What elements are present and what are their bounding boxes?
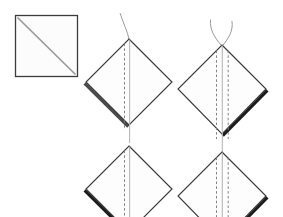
thread-line-icon (120, 14, 129, 40)
diamond-top-left (85, 14, 172, 144)
diamond-top-right (178, 20, 267, 152)
diamond-panel-fill (86, 39, 172, 125)
figure-canvas: Fabric folding diagram (0, 0, 283, 217)
thread-line-icon (223, 22, 232, 46)
thread-line-icon (210, 20, 221, 46)
square-with-diagonal (16, 16, 78, 77)
diamond-bottom-left (85, 146, 172, 217)
diamond-bottom-right (178, 152, 267, 217)
folding-diagram-svg: Fabric folding diagram (0, 0, 283, 217)
